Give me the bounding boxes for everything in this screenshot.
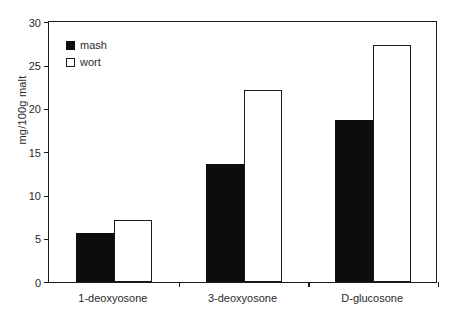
- y-axis-tick-mark: [44, 109, 49, 110]
- y-axis-tick-mark: [44, 196, 49, 197]
- bar-wort-1-deoxyosone: [114, 220, 152, 282]
- y-axis-tick-mark: [44, 152, 49, 153]
- y-axis-tick-mark: [44, 66, 49, 67]
- y-axis-tick-label: 15: [29, 147, 44, 159]
- y-axis-tick: 30: [29, 13, 49, 31]
- chart-legend: mash wort: [66, 38, 107, 72]
- bar-chart: mg/100g malt 051015202530 mash wort 1-de…: [0, 0, 456, 322]
- legend-swatch-wort-icon: [66, 58, 75, 67]
- bar-mash-D-glucosone: [335, 120, 373, 282]
- y-axis-tick: 20: [29, 100, 49, 118]
- y-axis-title: mg/100g malt: [16, 50, 28, 170]
- legend-item-mash: mash: [66, 38, 107, 53]
- bar-mash-1-deoxyosone: [76, 233, 114, 282]
- y-axis-tick: 5: [35, 230, 49, 248]
- y-axis-tick-label: 5: [35, 233, 44, 245]
- legend-item-wort: wort: [66, 55, 107, 70]
- y-axis-tick-label: 0: [35, 277, 44, 289]
- bar-wort-3-deoxyosone: [244, 90, 282, 282]
- y-axis-tick: 15: [29, 143, 49, 161]
- y-axis-tick-label: 30: [29, 17, 44, 29]
- x-axis-tick-mark: [438, 282, 439, 287]
- y-axis-tick-label: 10: [29, 190, 44, 202]
- x-axis-category-label: 3-deoxyosone: [208, 292, 277, 304]
- y-axis-tick-label: 25: [29, 60, 44, 72]
- legend-label-wort: wort: [80, 57, 101, 68]
- y-axis-tick: 10: [29, 186, 49, 204]
- bar-wort-D-glucosone: [373, 45, 411, 282]
- y-axis-tick-mark: [44, 282, 49, 283]
- bar-mash-3-deoxyosone: [206, 164, 244, 282]
- y-axis-tick-label: 20: [29, 103, 44, 115]
- x-axis-category-label: D-glucosone: [341, 292, 403, 304]
- x-axis-tick-mark: [308, 282, 309, 287]
- legend-swatch-mash-icon: [66, 41, 75, 50]
- y-axis-tick: 25: [29, 56, 49, 74]
- legend-label-mash: mash: [80, 40, 107, 51]
- y-axis-tick-mark: [44, 22, 49, 23]
- y-axis-tick: 0: [35, 273, 49, 291]
- x-axis-tick-mark: [179, 282, 180, 287]
- y-axis-tick-mark: [44, 239, 49, 240]
- x-axis-category-label: 1-deoxyosone: [78, 292, 147, 304]
